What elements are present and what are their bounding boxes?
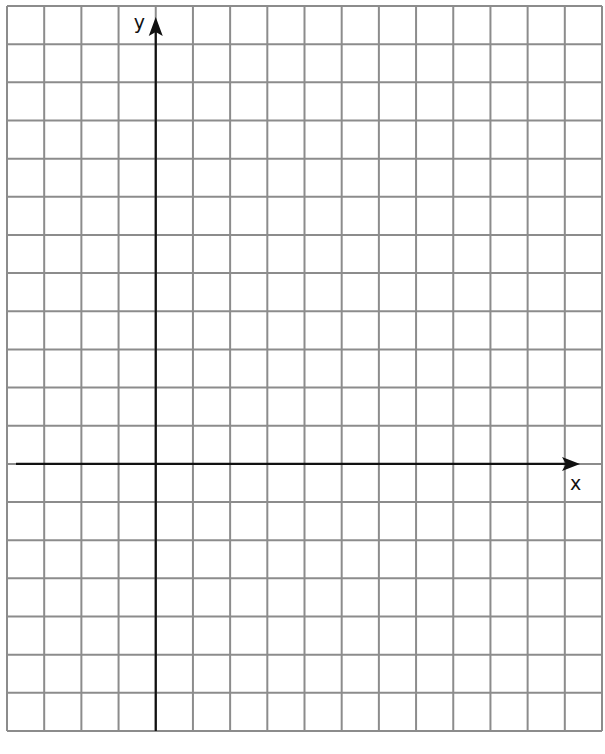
coordinate-grid (0, 0, 605, 754)
y-axis-label: y (134, 13, 145, 32)
axes (16, 17, 580, 731)
x-axis-label: x (570, 474, 581, 493)
grid-lines (7, 6, 602, 731)
